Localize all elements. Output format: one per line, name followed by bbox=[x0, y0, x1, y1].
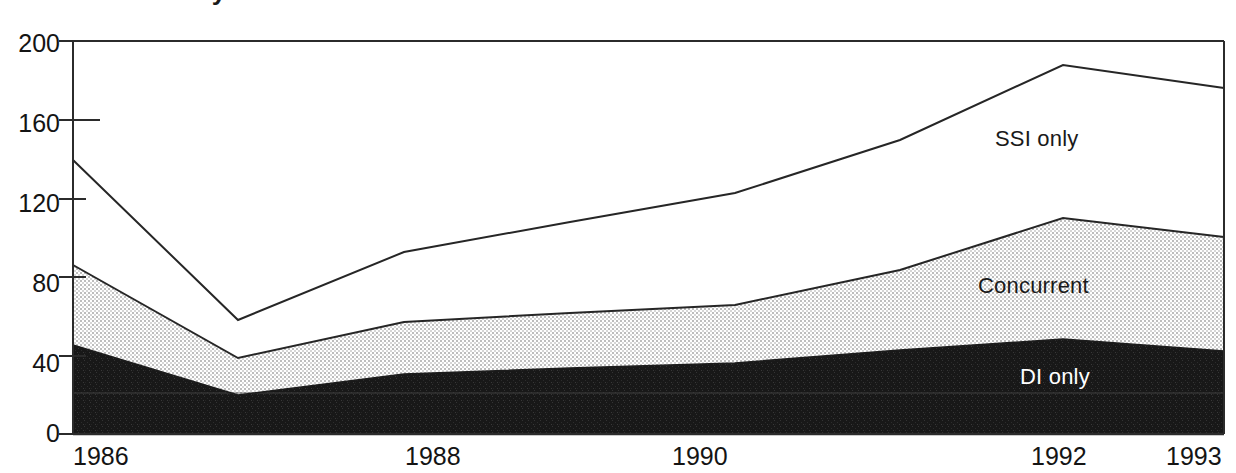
series-label-concurrent: Concurrent bbox=[978, 275, 1089, 297]
plot-area bbox=[0, 0, 1236, 473]
x-tick-label-1993: 1993 bbox=[1166, 443, 1222, 469]
series-label-di-only: DI only bbox=[1020, 366, 1090, 388]
series-label-ssi-only: SSI only bbox=[995, 128, 1079, 150]
x-tick-label-1986: 1986 bbox=[73, 443, 129, 469]
x-tick-label-1992: 1992 bbox=[1031, 443, 1087, 469]
stacked-area-chart-figure: Beneficiary 200 160 120 80 40 0 bbox=[0, 0, 1236, 473]
x-tick-label-1988: 1988 bbox=[405, 443, 461, 469]
x-axis-tick-labels: 1986 1988 1990 1992 1993 bbox=[0, 443, 1236, 473]
x-tick-label-1990: 1990 bbox=[672, 443, 728, 469]
